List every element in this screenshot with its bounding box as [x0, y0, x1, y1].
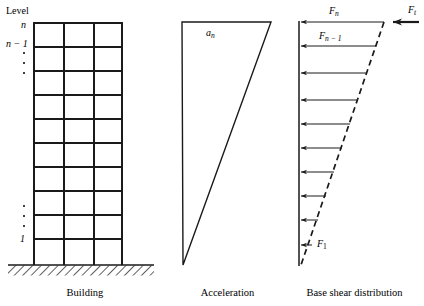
column-1 [33, 22, 35, 265]
level-ellipsis-lower [22, 205, 25, 227]
acceleration-peak-subscript: n [211, 31, 215, 40]
caption-base-shear: Base shear distribution [285, 288, 424, 299]
panel-building: Level n n − 1 1 [0, 0, 170, 306]
force-subscript-Fn: n [335, 9, 339, 18]
base-shear-diagram [285, 0, 424, 280]
column-3 [93, 22, 95, 265]
beam-2 [33, 238, 123, 240]
beam-4 [33, 190, 123, 192]
caption-building: Building [0, 288, 170, 299]
top-force-subscript: t [414, 8, 416, 17]
beam-roof [33, 22, 123, 24]
beam-10 [33, 46, 123, 48]
column-4 [121, 22, 123, 265]
level-header: Level [6, 6, 29, 16]
force-subscript-Fn-1: n − 1 [325, 34, 341, 43]
figure-root: Level n n − 1 1 [0, 0, 424, 306]
ground-hatching [8, 264, 158, 282]
beam-6 [33, 142, 123, 144]
panel-acceleration: an Acceleration [170, 0, 285, 306]
column-2 [63, 22, 65, 265]
beam-7 [33, 118, 123, 120]
top-force-label: Ft [408, 5, 416, 15]
level-ellipsis-upper [22, 52, 25, 74]
level-label-second: n − 1 [6, 39, 28, 49]
beam-5 [33, 166, 123, 168]
acceleration-peak-label: an [206, 28, 215, 38]
acceleration-triangle [170, 0, 285, 280]
caption-acceleration: Acceleration [170, 288, 285, 299]
level-label-bottom: 1 [20, 234, 25, 244]
panel-base-shear: Fn Fn − 1 F1 Ft Base shear distribution [285, 0, 424, 306]
force-label-Fn-1: Fn − 1 [319, 31, 341, 41]
force-label-F1: F1 [317, 239, 327, 249]
force-subscript-F1: 1 [323, 242, 327, 251]
level-label-top: n [21, 20, 26, 30]
force-label-Fn: Fn [329, 6, 339, 16]
force-arrows [301, 22, 384, 245]
base-shear-envelope [301, 22, 384, 265]
beam-3 [33, 214, 123, 216]
beam-8 [33, 94, 123, 96]
beam-9 [33, 70, 123, 72]
